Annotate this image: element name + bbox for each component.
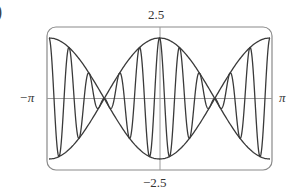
x-max-label: π (279, 91, 286, 104)
chart-plot-area (0, 0, 294, 192)
y-max-label: 2.5 (148, 8, 164, 21)
y-min-label: −2.5 (143, 176, 167, 189)
x-min-label: −π (19, 91, 34, 104)
